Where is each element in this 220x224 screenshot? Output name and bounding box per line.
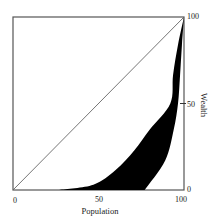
lorenz-chart: 0 50 100 0 50 100 Population Wealth: [0, 0, 220, 224]
x-tick-label-100: 100: [175, 195, 187, 204]
x-tick-label-0: 0: [13, 196, 17, 205]
x-axis-title: Population: [82, 206, 120, 216]
y-tick-label-50: 50: [187, 100, 195, 109]
y-tick-label-100: 100: [187, 12, 199, 21]
y-tick-label-0: 0: [187, 185, 191, 194]
y-axis-title: Wealth: [199, 93, 209, 118]
inequality-region: [59, 17, 184, 190]
x-tick-label-50: 50: [95, 195, 103, 204]
